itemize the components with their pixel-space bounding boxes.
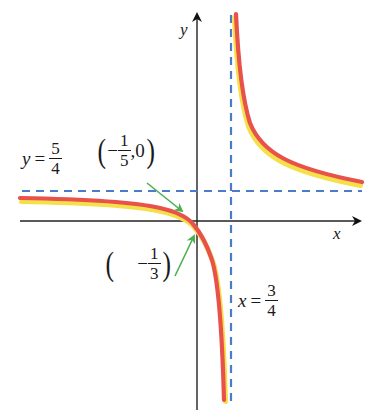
y-int-open-paren: ( xyxy=(105,247,113,281)
x-int-rest: ,0 xyxy=(131,140,145,161)
curve-left-branch-highlight xyxy=(22,202,226,402)
y-intercept-label: ( −13) xyxy=(104,245,172,282)
h-asym-den: 4 xyxy=(51,159,60,177)
h-asym-lhs: y xyxy=(22,148,30,169)
curve-right-branch-highlight xyxy=(235,18,361,186)
x-int-fraction: 15 xyxy=(118,132,131,169)
v-asym-lhs: x xyxy=(238,290,246,311)
h-asym-num: 5 xyxy=(49,140,62,159)
h-asym-fraction: 5 4 xyxy=(49,140,62,177)
curve-right-branch xyxy=(236,14,362,182)
y-int-num: 1 xyxy=(148,245,161,264)
horizontal-asymptote-label: y = 5 4 xyxy=(22,140,62,177)
h-asym-eq: = xyxy=(34,148,45,169)
y-int-close-paren: ) xyxy=(162,247,170,281)
x-intercept-label: (−15,0) xyxy=(96,132,156,169)
y-intercept-arrow xyxy=(175,236,194,276)
y-int-fraction: 13 xyxy=(148,245,161,282)
x-int-num: 1 xyxy=(118,132,131,151)
x-int-close-paren: ) xyxy=(146,134,154,168)
chart-canvas xyxy=(0,0,380,418)
y-int-sign: − xyxy=(137,253,148,274)
x-axis-label: x xyxy=(333,224,341,244)
v-asym-eq: = xyxy=(250,290,261,311)
vertical-asymptote-label: x = 3 4 xyxy=(238,282,278,319)
y-axis-label: y xyxy=(180,20,188,40)
v-asym-num: 3 xyxy=(265,282,278,301)
x-int-open-paren: ( xyxy=(97,134,105,168)
v-asym-den: 4 xyxy=(267,301,276,319)
x-int-sign: − xyxy=(107,140,118,161)
v-asym-fraction: 3 4 xyxy=(265,282,278,319)
x-int-den: 5 xyxy=(120,151,129,169)
y-int-den: 3 xyxy=(150,264,159,282)
